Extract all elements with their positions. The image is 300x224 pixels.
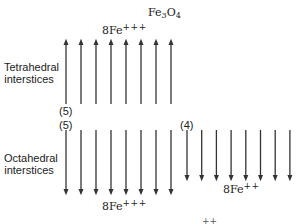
cutoff-charge-fragment: ++ [202, 216, 217, 224]
octahedral-fe2-ion-label: 8Fe++ [223, 183, 260, 196]
octahedral-fe2-down-arrows [187, 130, 290, 178]
tetrahedral-up-arrows [66, 42, 171, 104]
octahedral-fe3-down-arrows [66, 130, 171, 192]
octahedral-fe3-ion-label: 8Fe+++ [102, 200, 147, 213]
